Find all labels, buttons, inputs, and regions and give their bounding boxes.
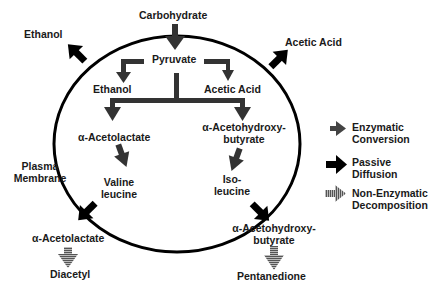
isoleucine-line1: Iso-: [210, 173, 254, 185]
legend-striped-arrow-icon: [325, 185, 346, 202]
acetohydroxybutyrate-inside-label: α-Acetohydroxy- butyrate: [198, 121, 290, 145]
legend-passive-line2: Diffusion: [352, 168, 398, 180]
ethanol-inside-label: Ethanol: [93, 83, 132, 95]
passive-arrow-icon: [61, 37, 91, 67]
acetic-acid-inside-label: Acetic Acid: [204, 83, 261, 95]
legend-enzymatic-line1: Enzymatic: [352, 121, 410, 133]
acetohydroxy-out-line1: α-Acetohydroxy-: [222, 222, 326, 234]
ethanol-outside-label: Ethanol: [24, 28, 63, 40]
striped-arrow-icon: [264, 246, 284, 270]
legend-passive-line1: Passive: [352, 156, 398, 168]
legend-passive-arrow-icon: [326, 155, 347, 174]
pathway-graphics: [0, 0, 443, 292]
legend-passive: Passive Diffusion: [352, 156, 398, 180]
acetolactate-outside-label: α-Acetolactate: [32, 232, 104, 244]
pentanedione-label: Pentanedione: [237, 270, 306, 282]
legend-nonenzymatic-line2: Decomposition: [352, 199, 428, 211]
striped-arrow-icon: [58, 247, 78, 268]
acetohydroxy-out-line2: butyrate: [222, 234, 326, 246]
acetohydroxy-line2: butyrate: [198, 133, 290, 145]
enzymatic-arrow-icon: [165, 24, 185, 50]
acetolactate-inside-label: α-Acetolactate: [78, 131, 150, 143]
enzymatic-arrow-icon: [116, 59, 144, 83]
passive-arrow-icon: [71, 196, 101, 226]
isoleucine-line2: leucine: [210, 185, 254, 197]
valine-line2: leucine: [96, 188, 142, 200]
membrane-line2: Membrane: [10, 172, 70, 184]
enzymatic-arrow-icon: [224, 146, 247, 174]
enzymatic-arrow-icon: [111, 142, 134, 170]
diacetyl-label: Diacetyl: [50, 268, 90, 280]
acetohydroxybutyrate-outside-label: α-Acetohydroxy- butyrate: [222, 222, 326, 246]
legend-nonenzymatic-line1: Non-Enzymatic: [352, 187, 428, 199]
enzymatic-arrow-icon: [204, 59, 234, 81]
membrane-line1: Plasma: [10, 160, 70, 172]
legend-enzymatic-line2: Conversion: [352, 133, 410, 145]
branch-connector: [104, 73, 251, 121]
valine-line1: Valine: [96, 176, 142, 188]
legend-enzymatic: Enzymatic Conversion: [352, 121, 410, 145]
valine-leucine-label: Valine leucine: [96, 176, 142, 200]
pyruvate-label: Pyruvate: [152, 53, 196, 65]
plasma-membrane-label: Plasma Membrane: [10, 160, 70, 184]
legend-nonenzymatic: Non-Enzymatic Decomposition: [352, 187, 428, 211]
carbohydrate-label: Carbohydrate: [139, 9, 207, 21]
acetic-acid-outside-label: Acetic Acid: [285, 36, 342, 48]
legend-enzymatic-arrow-icon: [330, 121, 346, 136]
acetohydroxy-line1: α-Acetohydroxy-: [198, 121, 290, 133]
isoleucine-label: Iso- leucine: [210, 173, 254, 197]
